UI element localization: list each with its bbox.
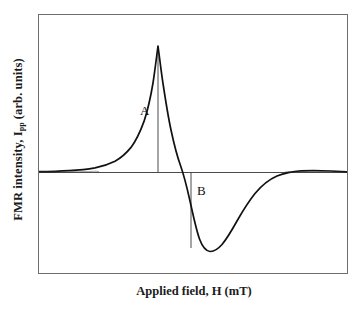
x-axis-label: Applied field, H (mT) (39, 284, 349, 299)
y-axis-label-container: FMR intensity, Ipp (arb. units) (0, 0, 36, 278)
annotation-label-b: B (197, 183, 206, 199)
fmr-spectrum-figure: FMR intensity, Ipp (arb. units) A B Appl… (0, 0, 363, 309)
fmr-lineshape-curve (39, 46, 347, 252)
y-axis-label-main: FMR intensity, I (11, 131, 25, 220)
fmr-curve-svg (39, 15, 347, 273)
y-axis-label-units: (arb. units) (11, 58, 25, 122)
plot-area: A B (38, 14, 348, 274)
baseline-noise-right (285, 172, 347, 173)
y-axis-label: FMR intensity, Ipp (arb. units) (11, 58, 26, 221)
y-axis-label-subscript: pp (17, 122, 26, 131)
annotation-label-a: A (140, 103, 149, 119)
